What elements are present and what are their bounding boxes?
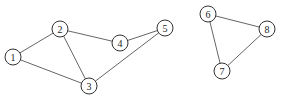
node-7: 7 bbox=[214, 63, 230, 79]
node-4: 4 bbox=[112, 35, 128, 51]
node-6: 6 bbox=[200, 6, 216, 22]
node-5: 5 bbox=[157, 20, 173, 36]
node-label: 4 bbox=[118, 38, 123, 49]
edge-6-8 bbox=[208, 14, 267, 29]
node-label: 1 bbox=[11, 52, 16, 63]
node-label: 6 bbox=[206, 9, 211, 20]
node-label: 2 bbox=[58, 24, 63, 35]
graph-diagram: 12345678 bbox=[0, 0, 281, 101]
edge-2-4 bbox=[60, 29, 120, 43]
node-label: 8 bbox=[265, 24, 270, 35]
edge-3-5 bbox=[89, 28, 165, 86]
node-3: 3 bbox=[81, 78, 97, 94]
node-label: 7 bbox=[220, 66, 225, 77]
node-8: 8 bbox=[259, 21, 275, 37]
nodes-layer: 12345678 bbox=[5, 6, 275, 94]
node-1: 1 bbox=[5, 49, 21, 65]
node-label: 3 bbox=[87, 81, 92, 92]
edge-7-8 bbox=[222, 29, 267, 71]
edge-2-3 bbox=[60, 29, 89, 86]
node-2: 2 bbox=[52, 21, 68, 37]
edge-6-7 bbox=[208, 14, 222, 71]
node-label: 5 bbox=[163, 23, 168, 34]
edge-1-3 bbox=[13, 57, 89, 86]
